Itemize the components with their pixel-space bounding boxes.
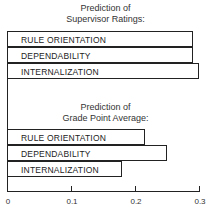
panel2-bar-rule-orientation: RULE ORIENTATION <box>7 129 145 145</box>
x-axis-tick <box>199 186 200 191</box>
panel2-bar-dependability: DEPENDABILITY <box>7 145 167 161</box>
panel2-title-line2: Grade Point Average: <box>0 113 211 124</box>
x-axis-tick-label: 0.1 <box>66 197 77 206</box>
panel2-title-line1: Prediction of <box>0 102 211 113</box>
panel1-bar-internalization: INTERNALIZATION <box>7 63 199 79</box>
panel1-title-line1: Prediction of <box>0 3 211 14</box>
bar-label: INTERNALIZATION <box>21 165 99 175</box>
x-axis-tick-label: 0.3 <box>194 197 205 206</box>
panel1-title: Prediction of Supervisor Ratings: <box>0 3 211 25</box>
x-axis-tick <box>71 186 72 191</box>
panel1-title-line2: Supervisor Ratings: <box>0 14 211 25</box>
panel1-bar-rule-orientation: RULE ORIENTATION <box>7 31 193 47</box>
bar-label: RULE ORIENTATION <box>21 35 106 45</box>
panel2-bar-internalization: INTERNALIZATION <box>7 161 122 177</box>
bar-label: DEPENDABILITY <box>21 149 91 159</box>
panel2-title: Prediction of Grade Point Average: <box>0 102 211 124</box>
bar-label: RULE ORIENTATION <box>21 133 106 143</box>
panel1-bar-dependability: DEPENDABILITY <box>7 47 193 63</box>
bar-label: INTERNALIZATION <box>21 67 99 77</box>
bar-label: DEPENDABILITY <box>21 51 91 61</box>
x-axis-tick-label: 0 <box>6 197 10 206</box>
x-axis-tick <box>135 186 136 191</box>
x-axis-line <box>7 191 200 192</box>
x-axis-tick-label: 0.2 <box>130 197 141 206</box>
